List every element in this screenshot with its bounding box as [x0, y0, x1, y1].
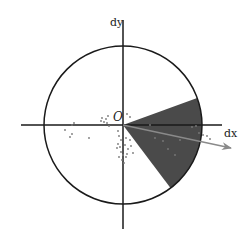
scatter-point	[116, 147, 118, 149]
scatter-point	[127, 148, 129, 150]
scatter-point	[202, 134, 204, 136]
scatter-point	[120, 151, 122, 153]
scatter-point	[162, 140, 164, 142]
scatter-point	[195, 125, 197, 127]
scatter-point	[198, 132, 200, 134]
scatter-point	[209, 138, 211, 140]
scatter-point	[174, 154, 176, 156]
scatter-point	[64, 129, 66, 131]
vector-polar-diagram: dy dx O	[0, 0, 250, 241]
y-axis-label: dy	[110, 16, 124, 29]
x-axis-label: dx	[224, 127, 238, 140]
scatter-point	[120, 139, 122, 141]
scatter-point	[100, 120, 102, 122]
scatter-point	[149, 124, 151, 126]
scatter-point	[122, 154, 124, 156]
scatter-point	[126, 153, 128, 155]
origin-label: O	[113, 110, 123, 124]
scatter-point	[124, 144, 126, 146]
scatter-point	[107, 115, 109, 117]
scatter-point	[88, 137, 90, 139]
scatter-point	[118, 156, 120, 158]
scatter-point	[125, 156, 127, 158]
scatter-point	[132, 152, 134, 154]
scatter-point	[71, 124, 73, 126]
scatter-point	[108, 125, 110, 127]
scatter-point	[125, 137, 127, 139]
shaded-sector	[123, 98, 202, 188]
scatter-point	[69, 136, 71, 138]
scatter-point	[118, 135, 120, 137]
scatter-point	[73, 122, 75, 124]
scatter-point	[167, 148, 169, 150]
scatter-point	[206, 135, 208, 137]
scatter-point	[129, 139, 131, 141]
scatter-point	[179, 139, 181, 141]
scatter-point	[130, 145, 132, 147]
scatter-point	[129, 116, 131, 118]
scatter-point	[117, 143, 119, 145]
scatter-point	[105, 118, 107, 120]
scatter-point	[191, 126, 193, 128]
scatter-point	[126, 113, 128, 115]
scatter-point	[71, 133, 73, 135]
scatter-point	[154, 137, 156, 139]
scatter-point	[101, 117, 103, 119]
scatter-point	[121, 159, 123, 161]
scatter-point	[117, 130, 119, 132]
scatter-point	[103, 121, 105, 123]
scatter-point	[119, 146, 121, 148]
scatter-point	[106, 122, 108, 124]
scatter-point	[123, 162, 125, 164]
